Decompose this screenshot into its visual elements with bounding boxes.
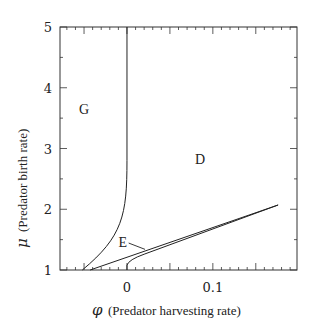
x-axis-symbol: φ xyxy=(92,301,103,319)
region-label-e: E xyxy=(118,235,127,250)
data-curves xyxy=(82,27,278,270)
curve-e-upper-boundary xyxy=(127,205,278,270)
x-axis-title: (Predator harvesting rate) xyxy=(108,303,241,318)
y-tick-label: 3 xyxy=(44,142,52,157)
y-tick-label: 5 xyxy=(44,20,52,35)
plot-frame xyxy=(60,27,297,270)
x-tick-label: 0 xyxy=(123,280,131,295)
annotations: GDE xyxy=(79,102,205,250)
region-label-d: D xyxy=(195,152,205,167)
x-tick-label: 0.1 xyxy=(203,280,224,295)
curve-g-d-boundary xyxy=(82,27,127,270)
y-tick-label: 2 xyxy=(44,202,52,217)
y-tick-label: 4 xyxy=(44,81,52,96)
y-tick-label: 1 xyxy=(44,263,52,278)
leader-line xyxy=(129,243,145,249)
y-axis-symbol: μ xyxy=(13,238,31,248)
y-axis-title: (Predator birth rate) xyxy=(15,129,30,232)
y-axis-label: μ (Predator birth rate) xyxy=(13,129,31,248)
chart: 00.112345 GDE φ (Predator harvesting rat… xyxy=(0,0,312,332)
axis-ticks xyxy=(60,27,297,270)
x-axis-label: φ (Predator harvesting rate) xyxy=(92,301,241,319)
region-label-g: G xyxy=(79,102,89,117)
